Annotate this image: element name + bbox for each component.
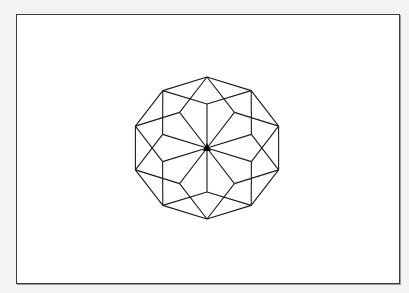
rosette-edge: [234, 112, 278, 126]
rosette-edge: [135, 112, 179, 126]
rosette-edge: [135, 126, 162, 162]
rosette-edge: [135, 170, 162, 206]
rosette-edge: [207, 77, 234, 112]
rosette-edge: [251, 91, 278, 127]
rosette-edge: [163, 205, 207, 219]
rosette-edge: [207, 148, 234, 184]
rosette-edge: [207, 192, 251, 205]
rosette-edge: [251, 126, 278, 162]
rosette-edge: [207, 91, 251, 104]
rosette-edge: [163, 91, 207, 104]
rosette-edge: [207, 184, 234, 219]
rosette-edge: [251, 134, 278, 170]
rosette-edge: [234, 170, 278, 184]
rosette-edge: [163, 148, 207, 162]
rosette-edge: [135, 91, 162, 127]
rosette-edge: [180, 77, 207, 112]
rosette-edge: [207, 205, 251, 219]
rosette-edge: [163, 134, 207, 148]
rosette-edge: [180, 184, 207, 219]
rosette-edge: [251, 170, 278, 206]
rosette-edge: [180, 148, 207, 184]
rosette-edge: [163, 77, 207, 91]
rosette-edge: [207, 77, 251, 91]
rhombus-rosette-diagram: [0, 0, 409, 293]
rosette-edge: [207, 112, 234, 148]
rosette-edge: [207, 134, 251, 148]
rosette-edge: [180, 112, 207, 148]
rosette-edge: [163, 192, 207, 205]
rosette-edge: [135, 170, 179, 184]
rosette-edge: [135, 134, 162, 170]
rosette-edge: [207, 148, 251, 162]
